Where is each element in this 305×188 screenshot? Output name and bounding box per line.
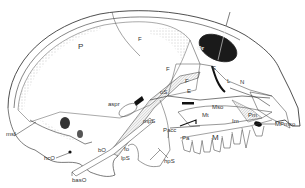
label-frontal-lower: F [185, 78, 189, 84]
label-msf: msf [6, 131, 16, 137]
label-palatine: Pa [182, 135, 189, 141]
label-maxilla: M [212, 134, 219, 142]
label-mpS-upper: mpS [143, 118, 155, 124]
label-orbitosphenoid: oS [160, 89, 167, 95]
label-mso: Mso [212, 104, 223, 110]
label-ethmoid-upper: E [212, 65, 216, 71]
label-basO: basO [72, 177, 86, 183]
label-lacrimal: L [227, 78, 230, 84]
label-hpS: hpS [164, 158, 175, 164]
label-maxilla-turbinate: Mt [202, 112, 209, 118]
label-orbit: Or [197, 45, 204, 51]
label-frontal-mid: F [166, 66, 170, 72]
label-parietal: P [78, 43, 83, 51]
label-im: Im [232, 118, 239, 124]
label-basioccipital-bO: bO [98, 147, 106, 153]
label-aspr: aspr [108, 101, 120, 107]
label-hcO: hcO [44, 155, 55, 161]
label-frontal-top: F [138, 36, 142, 42]
label-mpmso: MPmso [275, 121, 295, 127]
label-pacc: Pacc [163, 127, 176, 133]
label-lpS: lpS [121, 155, 130, 161]
upper-teeth [182, 126, 264, 154]
label-premaxilla: Pm [248, 112, 257, 118]
label-nasal: N [240, 79, 244, 85]
label-ethmoid-lower: E [187, 88, 191, 94]
label-foramen-ovale: fo [124, 146, 129, 152]
